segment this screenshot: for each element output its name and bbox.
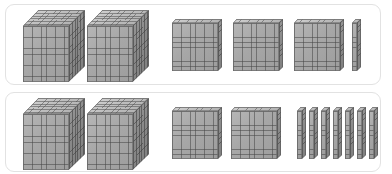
thousand-cube [23,98,85,170]
flat-front-face [294,23,340,71]
flat-right-face [277,107,281,159]
rod-right-face [362,107,366,159]
base-ten-blocks-figure [0,0,392,174]
flat-front-face [172,111,218,159]
ten-rod [357,107,366,159]
cube-front-face [87,26,133,82]
ten-rod [352,19,361,71]
flat-front-face [231,111,277,159]
hundred-flat [294,19,344,71]
hundred-flat [231,107,281,159]
ten-rod [333,107,342,159]
row-1-thousands-group [23,10,149,82]
thousand-cube [87,10,149,82]
thousand-cube [23,10,85,82]
flat-right-face [218,107,222,159]
rod-front-face [321,111,326,159]
rod-front-face [345,111,350,159]
row-2-hundreds-group [172,107,281,159]
cube-front-face [87,114,133,170]
rod-front-face [309,111,314,159]
flat-front-face [233,23,279,71]
rod-right-face [350,107,354,159]
row-2-thousands-group [23,98,149,170]
rod-right-face [374,107,378,159]
flat-front-face [172,23,218,71]
rod-front-face [333,111,338,159]
cube-front-face [23,26,69,82]
rod-front-face [369,111,374,159]
rod-front-face [357,111,362,159]
rod-right-face [302,107,306,159]
ten-rod [369,107,378,159]
flat-right-face [279,19,283,71]
flat-right-face [340,19,344,71]
ten-rod [309,107,318,159]
rod-front-face [297,111,302,159]
row-1-tens-group [352,19,361,71]
rod-right-face [326,107,330,159]
flat-right-face [218,19,222,71]
rod-right-face [357,19,361,71]
rod-front-face [352,23,357,71]
thousand-cube [87,98,149,170]
cube-front-face [23,114,69,170]
ten-rod [297,107,306,159]
rod-right-face [314,107,318,159]
hundred-flat [172,19,222,71]
ten-rod [345,107,354,159]
row-1-hundreds-group [172,19,344,71]
rod-right-face [338,107,342,159]
hundred-flat [172,107,222,159]
hundred-flat [233,19,283,71]
row-2-tens-group [297,107,378,159]
ten-rod [321,107,330,159]
